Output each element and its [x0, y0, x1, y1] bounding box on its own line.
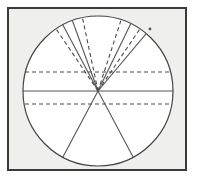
diagram-canvas	[0, 0, 201, 180]
diagram-figure: Circle with radiating chords and horizon…	[0, 0, 201, 180]
upper-right-dot	[149, 28, 152, 31]
